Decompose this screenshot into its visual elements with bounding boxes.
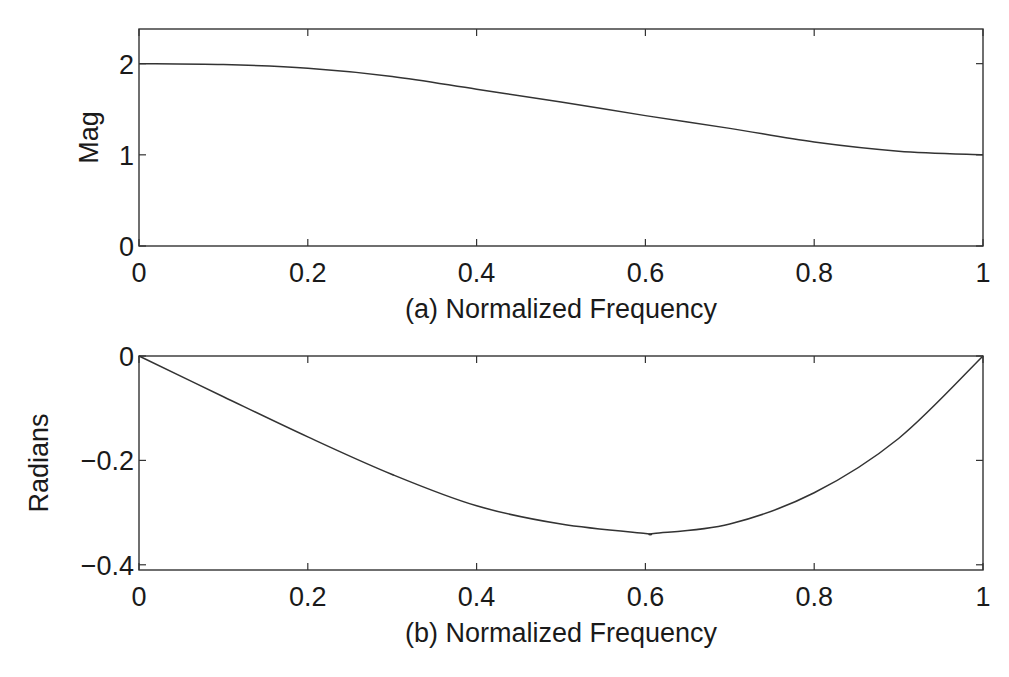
- y-axis-label: Radians: [24, 413, 54, 512]
- y-tick-label: 0: [119, 342, 134, 372]
- plot-frame: [139, 356, 983, 570]
- y-tick-label: 0: [119, 232, 134, 262]
- y-tick-label: 1: [119, 141, 134, 171]
- y-tick-label: 2: [119, 50, 134, 80]
- figure: 00.20.40.60.81012(a) Normalized Frequenc…: [0, 0, 1009, 677]
- y-axis-label: Mag: [74, 111, 104, 164]
- x-axis-label: (b) Normalized Frequency: [405, 618, 718, 648]
- x-tick-label: 0.6: [627, 582, 665, 612]
- x-tick-label: 0: [131, 582, 146, 612]
- phase-plot: 00.20.40.60.810−0.2−0.4(b) Normalized Fr…: [24, 342, 991, 648]
- x-axis-label: (a) Normalized Frequency: [405, 294, 718, 324]
- y-tick-label: −0.4: [81, 551, 134, 581]
- y-tick-label: −0.2: [81, 446, 134, 476]
- magnitude-plot: 00.20.40.60.81012(a) Normalized Frequenc…: [74, 29, 991, 324]
- phase-curve: [139, 356, 983, 535]
- x-tick-label: 1: [975, 582, 990, 612]
- x-tick-label: 0.8: [795, 258, 833, 288]
- magnitude-curve: [139, 64, 983, 155]
- x-tick-label: 0.8: [795, 582, 833, 612]
- x-tick-label: 0.2: [289, 582, 327, 612]
- x-tick-label: 0.4: [458, 582, 496, 612]
- x-tick-label: 0.2: [289, 258, 327, 288]
- x-tick-label: 0: [131, 258, 146, 288]
- plot-frame: [139, 29, 983, 246]
- x-tick-label: 1: [975, 258, 990, 288]
- x-tick-label: 0.6: [627, 258, 665, 288]
- x-tick-label: 0.4: [458, 258, 496, 288]
